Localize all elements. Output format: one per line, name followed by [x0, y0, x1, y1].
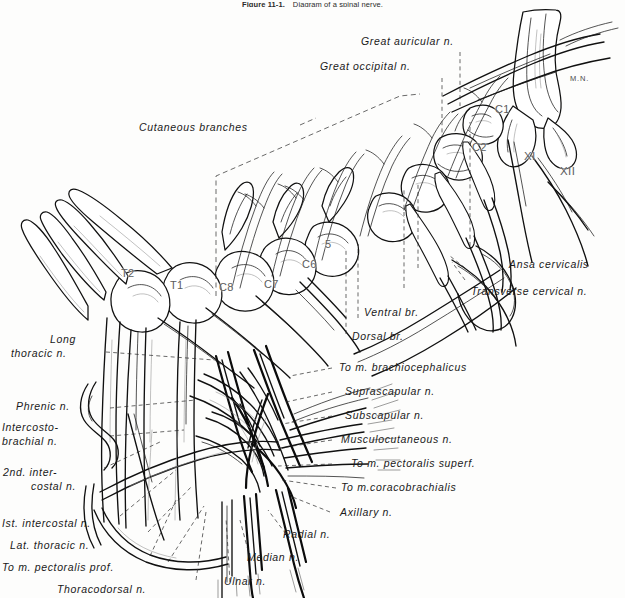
- cranial-nerve-label-xi: XI: [524, 150, 536, 162]
- median-nerve-marker-label: M.N.: [570, 74, 589, 83]
- segment-label-c7: C7: [264, 278, 279, 290]
- ventral-dorsal-branches: [158, 278, 360, 388]
- label-ansa-cervicalis: Ansa cervicalis: [509, 258, 589, 271]
- brachial-plexus-core: [81, 346, 400, 598]
- label-intercostobrachial-nerve-line1: Intercosto-: [2, 421, 59, 434]
- label-subscapular-nerve: Subscapular n.: [345, 409, 424, 422]
- label-to-m-pectoralis-profundus: To m. pectoralis prof.: [2, 561, 114, 574]
- segment-label-t1: T1: [170, 279, 184, 291]
- label-long-thoracic-nerve-line1: Long: [50, 333, 76, 346]
- segment-label-c1: C1: [495, 103, 510, 115]
- label-median-nerve: Median n.: [247, 551, 299, 564]
- segment-label-c2: C2: [472, 141, 487, 153]
- cranial-nerve-label-xii: XII: [560, 165, 575, 177]
- label-dorsal-branch: Dorsal br.: [352, 330, 404, 343]
- label-intercostobrachial-nerve-line2: brachial n.: [2, 435, 58, 448]
- label-suprascapular-nerve: Suprascapular n.: [345, 385, 435, 398]
- segment-label-c8: C8: [219, 281, 234, 293]
- occipital-auricular-nerves: [443, 22, 618, 112]
- figure-caption: Figure 11-1.Diagram of a spinal nerve.: [0, 0, 625, 10]
- segment-label-c5: 5: [325, 238, 332, 250]
- label-axillary-nerve: Axillary n.: [340, 506, 393, 519]
- label-ulnar-nerve: Ulnar n.: [224, 575, 266, 588]
- label-radial-nerve: Radial n.: [283, 528, 330, 541]
- figure-caption-number: Figure 11-1.: [242, 0, 285, 9]
- label-to-m-pectoralis-superficialis: To m. pectoralis superf.: [351, 457, 475, 470]
- label-long-thoracic-nerve-line2: thoracic n.: [11, 347, 67, 360]
- label-great-auricular-nerve: Great auricular n.: [361, 35, 454, 48]
- label-first-intercostal-nerve: Ist. intercostal n.: [2, 517, 91, 530]
- label-ventral-branch: Ventral br.: [364, 306, 419, 319]
- label-musculocutaneous-nerve: Musculocutaneous n.: [341, 433, 453, 446]
- label-great-occipital-nerve: Great occipital n.: [320, 60, 411, 73]
- label-second-intercostal-nerve-line2: costal n.: [31, 480, 76, 493]
- label-cutaneous-branches: Cutaneous branches: [139, 121, 248, 134]
- label-to-m-brachiocephalicus: To m. brachiocephalicus: [339, 361, 467, 374]
- label-thoracodorsal-nerve: Thoracodorsal n.: [57, 583, 146, 596]
- label-transverse-cervical-nerve: Transverse cervical n.: [471, 285, 587, 298]
- segment-label-t2: T2: [121, 267, 135, 279]
- label-lateral-thoracic-nerve: Lat. thoracic n.: [10, 539, 89, 552]
- skull-occiput-group: [497, 10, 576, 169]
- label-second-intercostal-nerve-line1: 2nd. inter-: [3, 466, 57, 479]
- figure-page: Figure 11-1.Diagram of a spinal nerve.: [0, 0, 625, 598]
- label-to-m-coracobrachialis: To m.coracobrachialis: [341, 481, 456, 494]
- anatomical-line-art: [0, 0, 625, 598]
- label-phrenic-nerve: Phrenic n.: [16, 400, 70, 413]
- segment-label-c6: C6: [302, 258, 317, 270]
- cervical-vertebrae-group: [215, 105, 503, 311]
- cutaneous-branches-nerves: [232, 76, 508, 288]
- figure-caption-text: Diagram of a spinal nerve.: [293, 0, 383, 9]
